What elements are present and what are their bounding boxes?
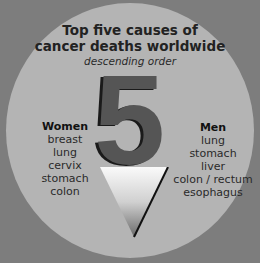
list-item: lung [168,134,258,147]
list-item: colon [35,185,95,198]
list-item: liver [168,160,258,173]
list-item: colon / rectum [168,173,258,186]
women-list: Women breast lung cervix stomach colon [35,120,95,198]
list-item: stomach [35,172,95,185]
list-item: breast [35,133,95,146]
men-list: Men lung stomach liver colon / rectum es… [168,121,258,199]
title-line-1: Top five causes of [0,22,260,38]
women-heading: Women [35,120,95,133]
list-item: stomach [168,147,258,160]
list-item: lung [35,146,95,159]
men-heading: Men [168,121,258,134]
descending-arrow-icon [100,167,172,239]
list-item: cervix [35,159,95,172]
list-item: esophagus [168,186,258,199]
big-numeral-five: 5 [94,56,165,184]
